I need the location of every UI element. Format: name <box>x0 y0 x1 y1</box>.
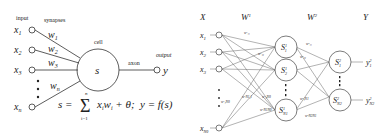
input-node-3 <box>216 66 222 72</box>
net-input-xN0: xN0 <box>199 124 208 134</box>
net-input-x1: x1 <box>199 31 206 41</box>
net-input-x3: x3 <box>199 65 207 75</box>
input-node-2 <box>216 49 222 55</box>
input-x2: x2 <box>13 44 21 56</box>
axon-label: axon <box>128 60 140 66</box>
weight-w3: w3 <box>48 57 58 69</box>
cell-label: cell <box>94 39 103 45</box>
cell-symbol: s <box>95 64 99 76</box>
column-y: Y <box>363 12 369 22</box>
svg-text:w¹₂N0: w¹₂N0 <box>262 95 271 99</box>
svg-text:w¹₁₂: w¹₁₂ <box>258 52 265 56</box>
column-w2: W2 <box>307 12 318 22</box>
neural-network-diagram: input synapses cell axon output x1 x2 x3… <box>0 0 387 139</box>
node-S1-2: S21 <box>335 58 341 68</box>
perceptron-dots <box>37 80 39 98</box>
column-w1: W1 <box>241 12 251 22</box>
node-S2-1: S12 <box>281 66 287 76</box>
net-input-x2: x2 <box>199 48 207 58</box>
svg-text:w²₁N1: w²₁N1 <box>300 97 309 101</box>
input-node-1 <box>216 32 222 38</box>
input-x3: x3 <box>13 64 21 76</box>
svg-text:w¹N1N0: w¹N1N0 <box>260 108 272 112</box>
svg-text:w¹N1,1: w¹N1,1 <box>242 95 252 100</box>
input-x1: x1 <box>13 24 21 36</box>
node-S1-1: S11 <box>281 43 287 53</box>
input-label: input <box>16 15 29 21</box>
weight-wn: wn <box>50 80 60 92</box>
formula-s-lhs: s = <box>58 98 72 110</box>
input-node-N0 <box>216 125 222 131</box>
output-symbol: y <box>162 64 168 76</box>
svg-text:w²₁₂: w²₁₂ <box>300 55 307 59</box>
formula-y: y = f(s) <box>139 98 173 111</box>
sigma-symbol: Σ <box>80 96 90 116</box>
column-x: X <box>199 12 206 22</box>
output-yN2: y2N2 <box>365 96 374 106</box>
weight-w2: w2 <box>48 43 58 55</box>
sum-lower: i=1 <box>81 116 88 121</box>
svg-text:w¹₁N0: w¹₁N0 <box>221 100 230 104</box>
svg-text:w²N2N1: w²N2N1 <box>305 114 317 118</box>
synapses-label: synapses <box>44 17 66 23</box>
formula-s-rhs: xiwi + θ; <box>96 98 135 111</box>
input-xn: xn <box>13 101 21 113</box>
svg-text:w²₁₁: w²₁₁ <box>306 42 312 46</box>
output-y1: y21 <box>365 58 372 68</box>
output-label: output <box>156 52 172 58</box>
svg-text:w¹₁₁: w¹₁₁ <box>244 31 250 35</box>
weight-w1: w1 <box>48 29 58 41</box>
